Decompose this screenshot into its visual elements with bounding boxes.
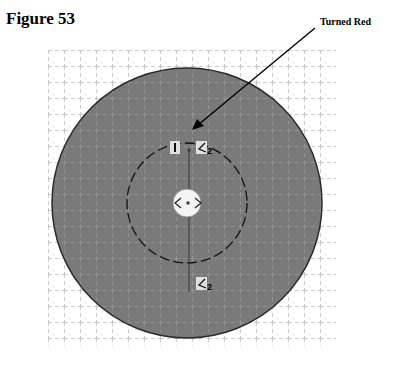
center-point [186,201,190,205]
vertical-relation-icon [170,141,180,154]
svg-text:2: 2 [207,282,212,292]
sketch-diagram: 2 2 [0,0,404,378]
svg-text:2: 2 [207,146,212,156]
line-endpoint-top [188,149,191,152]
